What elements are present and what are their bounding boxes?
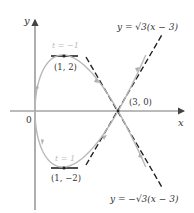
y-axis-label: y bbox=[23, 15, 30, 26]
point-label-3-0: (3, 0) bbox=[129, 97, 152, 107]
param-label-bottom: t = 1 bbox=[55, 154, 75, 163]
tangent-label-negative: y = −√3(x − 3) bbox=[109, 194, 179, 204]
point-3-0 bbox=[117, 110, 120, 113]
point-label-1-neg2: (1, −2) bbox=[51, 173, 81, 183]
x-axis-label: x bbox=[178, 117, 184, 128]
point-1-neg2 bbox=[62, 166, 65, 169]
point-label-1-2: (1, 2) bbox=[54, 62, 77, 72]
direction-arrow-icon bbox=[41, 139, 44, 145]
origin-label: 0 bbox=[26, 115, 32, 125]
parametric-diagram: y x 0 t = −1 t = 1 (1, 2) (1, −2) (3, 0)… bbox=[0, 0, 194, 213]
param-label-top: t = −1 bbox=[52, 41, 79, 50]
point-1-2 bbox=[62, 54, 65, 57]
tangent-label-positive: y = √3(x − 3) bbox=[116, 22, 178, 32]
